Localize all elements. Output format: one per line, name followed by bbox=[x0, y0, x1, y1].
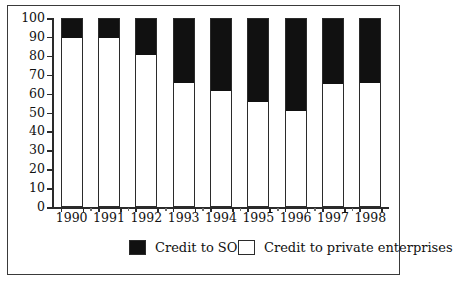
bar-segment-soe-1998 bbox=[360, 19, 380, 83]
bar-1998 bbox=[359, 18, 381, 207]
y-tick-mark bbox=[47, 37, 53, 39]
bar-1992 bbox=[135, 18, 157, 207]
y-tick-label: 30 bbox=[29, 144, 45, 157]
x-minor-tick bbox=[352, 208, 354, 211]
y-tick-label: 50 bbox=[29, 106, 45, 119]
y-tick-mark bbox=[47, 188, 53, 190]
y-tick-mark bbox=[47, 207, 53, 209]
legend-label-private: Credit to private enterprises bbox=[264, 240, 453, 255]
y-tick-mark bbox=[47, 75, 53, 77]
bar-segment-soe-1996 bbox=[286, 19, 306, 111]
bar-segment-soe-1997 bbox=[323, 19, 343, 84]
bar-segment-soe-1993 bbox=[174, 19, 194, 83]
legend-swatch-soe-icon bbox=[129, 240, 146, 255]
legend-item-credit-to-soes: Credit to SOEs bbox=[129, 240, 254, 255]
x-minor-tick bbox=[277, 208, 279, 211]
bar-1990 bbox=[61, 18, 83, 207]
bar-1993 bbox=[173, 18, 195, 207]
x-tick-label-1993: 1993 bbox=[168, 212, 200, 225]
x-minor-tick bbox=[240, 208, 242, 211]
y-tick-label: 0 bbox=[37, 201, 45, 214]
x-minor-tick bbox=[202, 208, 204, 211]
y-tick-mark bbox=[47, 131, 53, 133]
x-axis-line bbox=[52, 207, 389, 209]
bar-segment-soe-1995 bbox=[248, 19, 268, 102]
y-tick-mark bbox=[47, 169, 53, 171]
x-tick-label-1998: 1998 bbox=[354, 212, 386, 225]
y-tick-mark bbox=[47, 18, 53, 20]
plot-area: 1009080706050403020100 bbox=[52, 18, 388, 207]
y-tick-mark bbox=[47, 150, 53, 152]
bar-segment-soe-1991 bbox=[99, 19, 119, 38]
x-tick-label-1990: 1990 bbox=[56, 212, 88, 225]
x-tick-label-1992: 1992 bbox=[130, 212, 162, 225]
legend-item-credit-to-private-enterprises: Credit to private enterprises bbox=[238, 240, 453, 255]
y-tick-label: 10 bbox=[29, 182, 45, 195]
bar-segment-soe-1994 bbox=[211, 19, 231, 91]
x-tick-label-1997: 1997 bbox=[317, 212, 349, 225]
bar-1997 bbox=[322, 18, 344, 207]
y-tick-label: 60 bbox=[29, 87, 45, 100]
y-tick-label: 40 bbox=[29, 125, 45, 138]
y-tick-mark bbox=[47, 56, 53, 58]
x-minor-tick bbox=[90, 208, 92, 211]
x-tick-label-1991: 1991 bbox=[93, 212, 125, 225]
y-tick-label: 90 bbox=[29, 31, 45, 44]
y-tick-label: 100 bbox=[21, 12, 45, 25]
x-minor-tick bbox=[128, 208, 130, 211]
x-tick-label-1994: 1994 bbox=[205, 212, 237, 225]
chart-legend: Credit to SOEs Credit to private enterpr… bbox=[7, 236, 400, 268]
bar-segment-soe-1990 bbox=[62, 19, 82, 38]
x-tick-label-1996: 1996 bbox=[280, 212, 312, 225]
y-tick-label: 20 bbox=[29, 163, 45, 176]
bar-1996 bbox=[285, 18, 307, 207]
x-minor-tick bbox=[314, 208, 316, 211]
legend-swatch-private-icon bbox=[238, 240, 255, 255]
bar-segment-soe-1992 bbox=[136, 19, 156, 55]
y-tick-label: 80 bbox=[29, 50, 45, 63]
bar-1994 bbox=[210, 18, 232, 207]
x-minor-tick bbox=[165, 208, 167, 211]
x-tick-label-1995: 1995 bbox=[242, 212, 274, 225]
y-tick-mark bbox=[47, 94, 53, 96]
bar-1995 bbox=[247, 18, 269, 207]
y-tick-label: 70 bbox=[29, 68, 45, 81]
bar-1991 bbox=[98, 18, 120, 207]
y-tick-mark bbox=[47, 113, 53, 115]
